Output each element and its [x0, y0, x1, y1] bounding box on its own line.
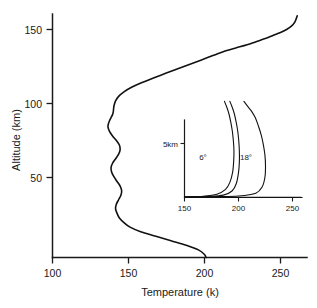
inset-x-tick-label-200: 200 — [232, 204, 246, 213]
x-axis-ticks — [53, 258, 281, 264]
temperature-altitude-chart: 150 100 50 100 150 200 250 Temperature (… — [0, 0, 317, 308]
figure-container: 150 100 50 100 150 200 250 Temperature (… — [0, 0, 317, 308]
y-tick-label-100: 100 — [24, 98, 42, 110]
x-tick-label-100: 100 — [44, 267, 62, 279]
inset-x-tick-label-250: 250 — [286, 204, 300, 213]
inset-curve-6-degree — [185, 101, 234, 197]
x-axis-title: Temperature (k) — [141, 286, 219, 298]
main-axes — [53, 14, 308, 258]
inset-curve-18-degree — [185, 101, 266, 197]
inset-annotation-6deg: 6° — [199, 153, 207, 162]
inset-x-tick-label-150: 150 — [178, 204, 192, 213]
y-tick-label-50: 50 — [30, 172, 42, 184]
y-axis-ticks — [47, 30, 53, 178]
inset-curve-middle — [185, 101, 240, 197]
inset-chart: 5km 150 200 250 6° 18° — [163, 101, 302, 213]
x-tick-label-250: 250 — [272, 267, 290, 279]
temperature-profile-curve — [108, 16, 297, 258]
y-axis-title: Altitude (km) — [10, 109, 22, 171]
x-tick-label-200: 200 — [196, 267, 214, 279]
inset-curve-group — [185, 101, 302, 197]
x-tick-label-150: 150 — [120, 267, 138, 279]
x-axis-tick-labels: 100 150 200 250 — [44, 267, 290, 279]
y-axis-tick-labels: 150 100 50 — [24, 24, 42, 184]
y-tick-label-150: 150 — [24, 24, 42, 36]
inset-annotation-18deg: 18° — [240, 153, 252, 162]
inset-y-tick-label-5km: 5km — [163, 140, 178, 149]
